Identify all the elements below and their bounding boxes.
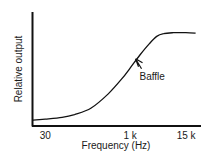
arrow-icon	[136, 59, 143, 69]
annotation-label: Baffle	[140, 71, 166, 82]
x-axis-label: Frequency (Hz)	[82, 140, 151, 151]
x-tick-label: 30	[40, 130, 52, 141]
series-line	[33, 33, 196, 120]
chart: 301 k15 k Baffle Frequency (Hz) Relative…	[0, 0, 217, 159]
x-tick-label: 15 k	[177, 130, 197, 141]
y-axis-label: Relative output	[13, 35, 24, 102]
annotation: Baffle	[136, 59, 166, 82]
